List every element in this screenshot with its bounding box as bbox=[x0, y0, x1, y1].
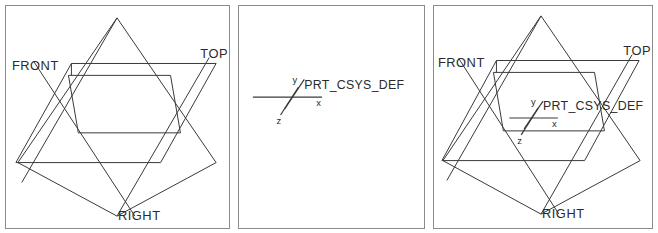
csys-axis-label-y: y bbox=[531, 96, 536, 107]
panel-3-canvas: FRONT TOP RIGHT y x z PRT_CSYS_DEF bbox=[434, 6, 652, 228]
datum-label-top: TOP bbox=[623, 43, 651, 58]
datum-label-front: FRONT bbox=[438, 55, 485, 70]
csys-name-label: PRT_CSYS_DEF bbox=[543, 99, 643, 113]
datum-edge-b bbox=[34, 62, 135, 217]
datum-label-right: RIGHT bbox=[118, 208, 161, 223]
datum-edge-c bbox=[117, 58, 209, 217]
csys-z-axis bbox=[281, 87, 299, 115]
csys-axis-label-z: z bbox=[517, 135, 522, 146]
panel-1-canvas: FRONT TOP RIGHT bbox=[6, 6, 229, 228]
coordinate-system-panel[interactable]: y x z PRT_CSYS_DEF bbox=[238, 5, 425, 229]
datum-planes-panel[interactable]: FRONT TOP RIGHT bbox=[5, 5, 230, 229]
datum-edge-a bbox=[22, 18, 117, 183]
cad-figure-root: FRONT TOP RIGHT y x z PRT_CSYS_DEF bbox=[0, 0, 658, 233]
datum-label-top: TOP bbox=[200, 46, 228, 61]
csys-axis-label-x: x bbox=[552, 118, 557, 129]
datum-label-front: FRONT bbox=[12, 58, 59, 73]
datum-label-right: RIGHT bbox=[542, 206, 585, 221]
csys-name-label: PRT_CSYS_DEF bbox=[304, 78, 404, 92]
combined-panel[interactable]: FRONT TOP RIGHT y x z PRT_CSYS_DEF bbox=[433, 5, 653, 229]
panel-2-canvas: y x z PRT_CSYS_DEF bbox=[239, 6, 424, 228]
csys-axis-label-x: x bbox=[316, 97, 321, 108]
datum-plane-right-outline bbox=[443, 16, 640, 214]
datum-edge-c bbox=[541, 55, 632, 215]
datum-edge-b bbox=[459, 59, 559, 215]
csys-axis-label-y: y bbox=[292, 74, 297, 85]
csys-axis-label-z: z bbox=[277, 115, 282, 126]
datum-edge-a bbox=[447, 16, 541, 181]
datum-plane-front-outline bbox=[68, 75, 180, 132]
datum-plane-top-outline bbox=[16, 63, 216, 162]
